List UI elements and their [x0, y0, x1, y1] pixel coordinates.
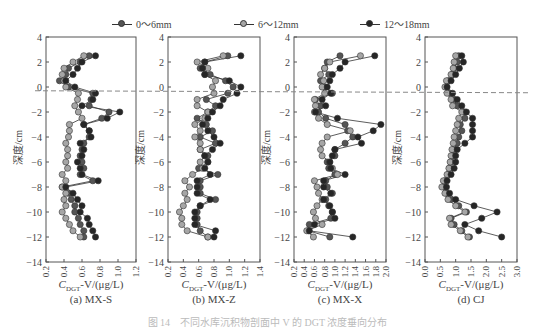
data-point: [462, 140, 468, 146]
data-point: [454, 146, 460, 152]
data-point: [453, 203, 459, 209]
data-point: [310, 209, 316, 215]
data-point: [88, 134, 94, 140]
data-point: [192, 209, 198, 215]
data-point: [199, 65, 205, 71]
x-tick-label: 0.8: [209, 266, 219, 278]
x-tick-label: 0.6: [77, 266, 87, 278]
y-axis-label: 深度/cm: [134, 130, 146, 165]
x-tick-label: 1.0: [330, 266, 340, 278]
data-point: [197, 203, 203, 209]
data-point: [197, 128, 203, 134]
data-point: [459, 53, 465, 59]
data-point: [63, 190, 69, 196]
data-point: [220, 53, 226, 59]
data-point: [312, 103, 318, 109]
data-point: [207, 196, 213, 202]
data-point: [321, 184, 327, 190]
data-point: [319, 221, 325, 227]
data-point: [202, 153, 208, 159]
y-tick-label: −12: [274, 232, 290, 243]
data-point: [194, 184, 200, 190]
data-point: [63, 159, 69, 165]
data-point: [72, 103, 78, 109]
x-tick-label: 1.2: [340, 266, 350, 277]
data-point: [59, 209, 65, 215]
data-point: [74, 159, 80, 165]
data-point: [90, 96, 96, 102]
data-point: [337, 53, 343, 59]
x-tick-label: 0.0: [420, 266, 430, 278]
data-point: [86, 221, 92, 227]
data-point: [314, 203, 320, 209]
data-point: [350, 234, 356, 240]
data-point: [328, 90, 334, 96]
data-point: [315, 190, 321, 196]
data-point: [79, 103, 85, 109]
data-point: [182, 178, 188, 184]
y-tick-label: 2: [37, 57, 42, 68]
data-point: [209, 146, 215, 152]
x-tick-label: 1.0: [113, 266, 123, 278]
data-point: [443, 184, 449, 190]
data-point: [306, 228, 312, 234]
data-point: [327, 203, 333, 209]
y-tick-label: 4: [416, 32, 421, 43]
data-point: [215, 171, 221, 177]
data-point: [327, 78, 333, 84]
data-point: [494, 209, 500, 215]
y-tick-label: −10: [405, 207, 421, 218]
y-tick-label: −6: [31, 157, 42, 168]
data-point: [79, 59, 85, 65]
data-point: [70, 228, 76, 234]
data-point: [59, 171, 65, 177]
data-point: [207, 171, 213, 177]
y-tick-label: −6: [153, 157, 164, 168]
y-tick-label: −2: [31, 107, 42, 118]
x-tick-label: 3.0: [512, 266, 522, 278]
data-point: [86, 103, 92, 109]
chart-panel-1: 420−2−4−6−8−10−12−140.20.40.60.81.01.21.…: [134, 32, 265, 278]
data-point: [450, 103, 456, 109]
data-point: [329, 71, 335, 77]
x-tick-label: 1.6: [361, 266, 371, 278]
data-point: [81, 146, 87, 152]
data-point: [312, 215, 318, 221]
y-tick-label: −2: [410, 107, 421, 118]
data-point: [342, 171, 348, 177]
y-tick-label: 2: [159, 57, 164, 68]
data-point: [469, 115, 475, 121]
data-point: [192, 221, 198, 227]
data-point: [453, 159, 459, 165]
panel-title-c: (c) MX-X: [294, 293, 386, 305]
y-tick-label: −10: [26, 207, 42, 218]
y-tick-label: −6: [410, 157, 421, 168]
y-axis-label: 深度/cm: [12, 130, 24, 165]
data-point: [77, 165, 83, 171]
data-point: [74, 65, 80, 71]
data-point: [465, 234, 471, 240]
data-point: [205, 159, 211, 165]
data-point: [209, 84, 215, 90]
data-point: [311, 221, 317, 227]
data-point: [454, 121, 460, 127]
y-tick-label: −10: [274, 207, 290, 218]
data-point: [72, 203, 78, 209]
x-tick-label: 1.8: [371, 266, 381, 278]
data-point: [61, 196, 67, 202]
data-point: [357, 53, 363, 59]
data-point: [197, 140, 203, 146]
data-point: [448, 221, 454, 227]
data-point: [184, 196, 190, 202]
y-tick-label: −4: [153, 132, 164, 143]
data-point: [81, 228, 87, 234]
data-point: [312, 109, 318, 115]
data-point: [74, 96, 80, 102]
x-tick-label: 0.5: [435, 266, 445, 278]
data-point: [180, 203, 186, 209]
data-point: [321, 78, 327, 84]
data-point: [203, 96, 209, 102]
data-point: [65, 165, 71, 171]
x-tick-label: 0.8: [95, 266, 105, 278]
y-axis-label: 深度/cm: [391, 130, 403, 165]
